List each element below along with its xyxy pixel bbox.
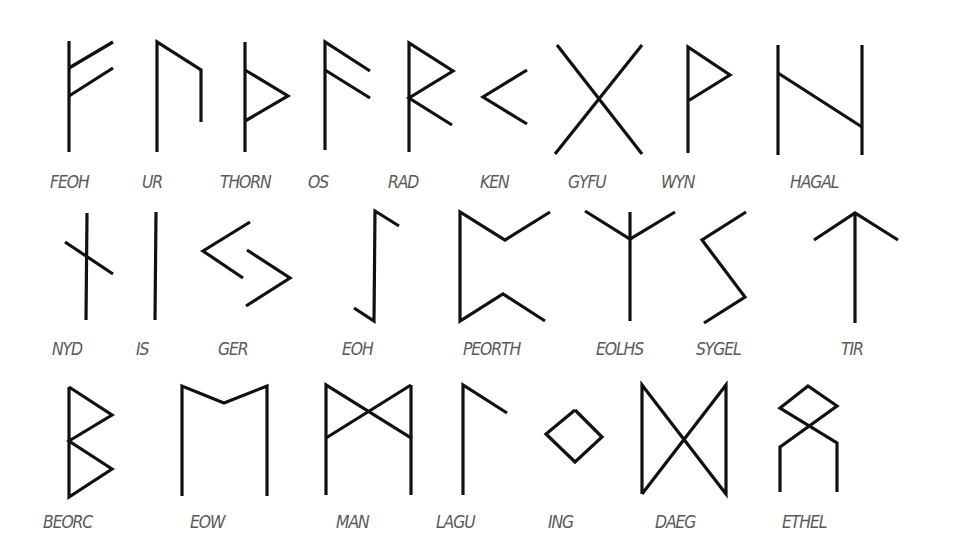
rune-sygel-label: SYGEL xyxy=(696,339,741,359)
rune-eolhs-glyph xyxy=(585,211,675,321)
rune-tir-label: TIR xyxy=(841,339,863,359)
rune-lagu-label: LAGU xyxy=(436,512,475,532)
rune-hagal-label: HAGAL xyxy=(790,172,838,192)
rune-wyn-glyph xyxy=(688,47,730,153)
rune-os-glyph xyxy=(325,42,370,150)
rune-eow-glyph xyxy=(182,386,267,496)
rune-ing-glyph xyxy=(546,410,602,462)
rune-ur-label: UR xyxy=(142,172,162,192)
rune-peorth-label: PEORTH xyxy=(463,339,520,359)
rune-ur-glyph xyxy=(157,42,201,152)
rune-ing-label: ING xyxy=(548,512,573,532)
rune-daeg-glyph xyxy=(642,385,726,494)
rune-beorc-label: BEORC xyxy=(43,512,92,532)
rune-feoh-glyph xyxy=(69,41,113,152)
rune-tir-glyph xyxy=(814,213,898,323)
rune-gyfu-glyph xyxy=(555,45,642,154)
rune-rad-glyph xyxy=(409,43,453,152)
rune-thorn-label: THORN xyxy=(220,172,271,192)
rune-lagu-glyph xyxy=(463,385,507,495)
rune-peorth-glyph xyxy=(460,212,550,321)
rune-gyfu-label: GYFU xyxy=(568,172,606,192)
rune-man-label: MAN xyxy=(336,512,369,532)
rune-ger-label: GER xyxy=(218,339,248,359)
rune-hagal-glyph xyxy=(778,45,862,155)
rune-eow-label: EOW xyxy=(190,512,224,532)
rune-man-glyph xyxy=(326,385,411,495)
rune-nyd-glyph xyxy=(65,213,113,320)
rune-ethel-glyph xyxy=(780,386,837,492)
runes-chart xyxy=(0,0,953,557)
rune-eoh-label: EOH xyxy=(342,339,373,359)
rune-beorc-glyph xyxy=(69,387,112,497)
rune-feoh-label: FEOH xyxy=(50,172,89,192)
rune-sygel-glyph xyxy=(702,212,746,323)
rune-eoh-glyph xyxy=(354,211,399,321)
rune-nyd-label: NYD xyxy=(52,339,82,359)
rune-wyn-label: WYN xyxy=(661,172,694,192)
rune-ger-glyph xyxy=(203,222,290,306)
rune-ken-glyph xyxy=(483,70,527,124)
rune-is-glyph xyxy=(155,212,156,320)
rune-daeg-label: DAEG xyxy=(655,512,695,532)
rune-eolhs-label: EOLHS xyxy=(596,339,643,359)
rune-ken-label: KEN xyxy=(480,172,509,192)
rune-os-label: OS xyxy=(308,172,328,192)
rune-is-label: IS xyxy=(136,339,148,359)
rune-rad-label: RAD xyxy=(388,172,418,192)
rune-ethel-label: ETHEL xyxy=(782,512,826,532)
rune-thorn-glyph xyxy=(245,42,288,152)
